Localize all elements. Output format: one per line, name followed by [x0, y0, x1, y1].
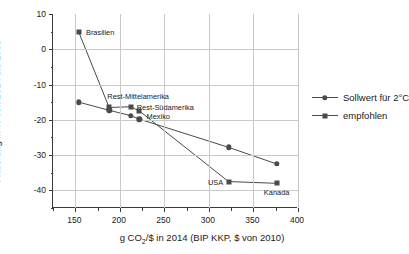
y-axis-tick-label: -30 [34, 150, 46, 160]
y-axis-tick-label: -10 [34, 80, 46, 90]
y-axis-tick-label: -40 [34, 185, 46, 195]
y-axis-minor-tick [51, 102, 54, 103]
y-axis-minor-tick [51, 173, 54, 174]
gridline-horizontal [53, 49, 298, 50]
x-axis-tick-label: 400 [290, 215, 304, 225]
legend-line-swatch [312, 112, 338, 119]
x-axis-tick-label: 300 [201, 215, 215, 225]
x-axis-minor-tick [98, 208, 99, 211]
legend-line-swatch [312, 94, 338, 101]
gridline-vertical [298, 14, 299, 208]
data-point-marker [76, 30, 81, 35]
gridline-horizontal [53, 155, 298, 156]
x-axis-title: g CO2/$ in 2014 (BIP KKP, $ von 2010) [120, 232, 285, 245]
x-axis-tick-label: 150 [67, 215, 81, 225]
legend-item-label: Sollwert für 2°C [343, 92, 409, 103]
x-axis-tick-label: 250 [156, 215, 170, 225]
legend-item-1[interactable]: empfohlen [312, 110, 409, 121]
x-axis-minor-tick [276, 208, 277, 211]
y-axis-tick [49, 14, 53, 15]
data-point-label: Mexiko [147, 112, 170, 121]
y-axis-title: Änderung in % von 2014 bis 2030 [0, 40, 2, 183]
x-axis-minor-tick [231, 208, 232, 211]
data-point-marker [107, 105, 112, 110]
x-axis-minor-tick [187, 208, 188, 211]
y-axis-minor-tick [51, 67, 54, 68]
data-point-label: Brasilien [86, 28, 114, 37]
x-axis-title-post: /$ in 2014 (BIP KKP, $ von 2010) [146, 232, 285, 243]
y-axis-tick [49, 49, 53, 50]
data-point-label: Rest-Südamerika [137, 102, 194, 111]
x-axis-tick [120, 208, 121, 212]
x-axis-tick [209, 208, 210, 212]
x-axis-tick [164, 208, 165, 212]
data-point-label: Kanada [264, 188, 289, 197]
y-axis-minor-tick [51, 32, 54, 33]
x-axis-tick-label: 350 [245, 215, 259, 225]
y-axis-tick [49, 190, 53, 191]
y-axis-tick [49, 85, 53, 86]
data-point-marker [226, 179, 231, 184]
x-axis-title-pre: g CO [120, 232, 142, 243]
legend-item-label: empfohlen [343, 110, 387, 121]
legend-item-0[interactable]: Sollwert für 2°C [312, 92, 409, 103]
chart-legend: Sollwert für 2°Cempfohlen [312, 92, 409, 128]
gridline-horizontal [53, 85, 298, 86]
data-point-label: Rest-Mittelamerika [107, 91, 169, 100]
gridline-horizontal [53, 190, 298, 191]
data-point-label: USA [208, 177, 223, 186]
x-axis-tick [253, 208, 254, 212]
gridline-vertical [120, 14, 121, 208]
data-point-marker [128, 104, 133, 109]
y-axis-tick-label: 10 [37, 9, 46, 19]
x-axis-tick-label: 200 [112, 215, 126, 225]
data-point-marker [274, 181, 279, 186]
legend-marker-icon [323, 113, 328, 118]
x-axis-minor-tick [142, 208, 143, 211]
x-axis-tick [75, 208, 76, 212]
gridline-vertical [253, 14, 254, 208]
y-axis-minor-tick [51, 137, 54, 138]
y-axis-tick [49, 120, 53, 121]
y-axis-tick-label: 0 [41, 44, 46, 54]
y-axis-tick-label: -20 [34, 115, 46, 125]
x-axis-tick [298, 208, 299, 212]
gridline-vertical [75, 14, 76, 208]
legend-marker-icon [322, 95, 327, 100]
plot-area: BrasilienRest-MittelamerikaRest-Südameri… [52, 14, 297, 208]
y-axis-tick [49, 155, 53, 156]
x-axis-minor-tick [53, 208, 54, 211]
gridline-horizontal [53, 120, 298, 121]
